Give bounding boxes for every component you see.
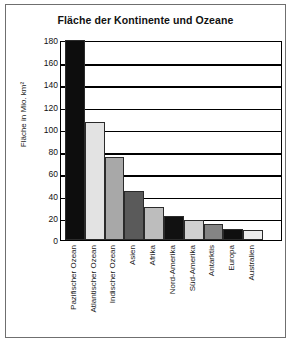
y-tick-label: 40 [24, 192, 58, 201]
bar[interactable] [105, 157, 125, 240]
y-axis-ticks: 020406080100120140160180 [24, 41, 58, 241]
x-tick: Asien [123, 243, 143, 339]
x-tick-label: Europa [228, 245, 236, 271]
x-tick-label: Pazifischer Ozean [70, 245, 78, 310]
x-tick-label: Antarktis [208, 245, 216, 276]
x-tick: Afrika [143, 243, 163, 339]
x-tick: Antarktis [203, 243, 223, 339]
x-tick-label: Süd-Amerika [189, 245, 197, 291]
x-tick: Nord-Amerika [163, 243, 183, 339]
bar-series [61, 42, 281, 240]
chart-title: Fläche der Kontinente und Ozeane [6, 14, 285, 26]
x-tick: Süd-Amerika [183, 243, 203, 339]
x-tick: Pazifischer Ozean [64, 243, 84, 339]
chart-frame: Fläche der Kontinente und Ozeane Fläche … [5, 4, 286, 338]
x-tick: Australien [242, 243, 262, 339]
x-tick-label: Indischer Ozean [109, 245, 117, 303]
x-tick: Indischer Ozean [104, 243, 124, 339]
y-tick-label: 60 [24, 170, 58, 179]
bar[interactable] [65, 40, 85, 240]
y-tick-label: 100 [24, 126, 58, 135]
bar[interactable] [184, 220, 204, 240]
x-tick-label: Asien [129, 245, 137, 265]
bar[interactable] [164, 216, 184, 240]
y-tick-label: 20 [24, 215, 58, 224]
y-tick-label: 0 [24, 237, 58, 246]
bar[interactable] [223, 229, 243, 240]
x-tick-label: Atlantischer Ozean [90, 245, 98, 313]
bar[interactable] [243, 230, 263, 240]
x-tick: Atlantischer Ozean [84, 243, 104, 339]
y-tick-label: 80 [24, 148, 58, 157]
y-tick-label: 120 [24, 103, 58, 112]
bar[interactable] [85, 122, 105, 240]
x-tick-label: Nord-Amerika [169, 245, 177, 294]
bar[interactable] [204, 224, 224, 240]
bar[interactable] [144, 207, 164, 240]
x-axis-ticks: Pazifischer OzeanAtlantischer OzeanIndis… [60, 243, 282, 339]
x-tick-label: Australien [248, 245, 256, 281]
y-tick-label: 160 [24, 59, 58, 68]
y-tick-label: 140 [24, 81, 58, 90]
bar[interactable] [124, 191, 144, 240]
plot-area [60, 41, 282, 241]
x-tick: Europa [222, 243, 242, 339]
y-tick-label: 180 [24, 37, 58, 46]
x-tick-label: Afrika [149, 245, 157, 265]
